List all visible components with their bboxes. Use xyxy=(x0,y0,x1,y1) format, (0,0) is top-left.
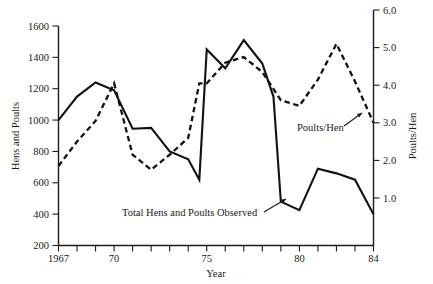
left-tick-label: 400 xyxy=(33,209,49,220)
line-chart-svg: 2004006008001000120014001600 1.02.03.04.… xyxy=(0,0,433,284)
right-tick-label: 1.0 xyxy=(383,193,396,204)
left-axis-title: Hens and Poults xyxy=(10,102,21,170)
x-tick-label: 75 xyxy=(201,253,212,264)
poults-per-hen-label-arrowhead xyxy=(357,113,362,118)
right-axis-title: Poults/Hen xyxy=(407,112,418,159)
left-tick-label: 800 xyxy=(33,146,49,157)
x-tick-label: 84 xyxy=(368,253,379,264)
right-tick-label: 3.0 xyxy=(383,117,396,128)
left-tick-label: 600 xyxy=(33,177,49,188)
left-tick-label: 1200 xyxy=(28,83,49,94)
chart-container: 2004006008001000120014001600 1.02.03.04.… xyxy=(0,0,433,284)
chart-annotations: Poults/HenTotal Hens and Poults Observed xyxy=(122,113,362,218)
right-tick-label: 5.0 xyxy=(383,42,396,53)
x-axis-title: Year xyxy=(206,268,226,279)
left-tick-label: 1000 xyxy=(28,115,49,126)
right-tick-label: 6.0 xyxy=(383,5,396,16)
x-tick-label: 70 xyxy=(109,253,120,264)
right-tick-label: 2.0 xyxy=(383,155,396,166)
right-axis-ticks: 1.02.03.04.05.06.0 xyxy=(374,5,397,204)
left-tick-label: 1600 xyxy=(28,21,49,32)
x-axis-ticks: 196770758084 xyxy=(48,246,380,265)
right-tick-label: 4.0 xyxy=(383,80,396,91)
poults-per-hen-label: Poults/Hen xyxy=(297,122,344,133)
x-tick-label: 80 xyxy=(294,253,305,264)
left-tick-label: 1400 xyxy=(28,52,49,63)
total-hens-label: Total Hens and Poults Observed xyxy=(122,207,258,218)
left-axis-ticks: 2004006008001000120014001600 xyxy=(28,21,59,252)
left-tick-label: 200 xyxy=(33,240,49,251)
series-poults-per-hen xyxy=(59,44,374,170)
x-tick-label: 1967 xyxy=(48,253,69,264)
